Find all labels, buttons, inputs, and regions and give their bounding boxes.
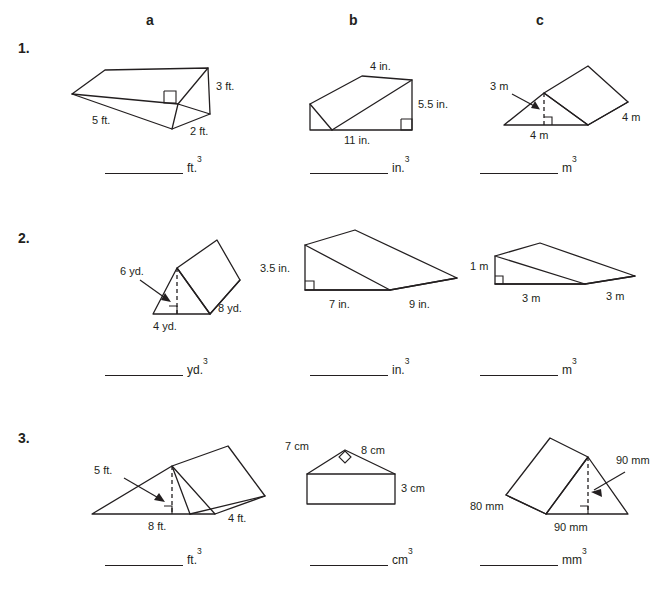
label-3c-length: 80 mm bbox=[470, 500, 504, 512]
answer-unit-2a: yd.3 bbox=[187, 362, 208, 376]
answer-blank-1c[interactable]: m3 bbox=[480, 160, 577, 174]
answer-blank-3c[interactable]: mm3 bbox=[480, 552, 587, 566]
column-header-b: b bbox=[349, 12, 358, 28]
answer-line-2b[interactable] bbox=[310, 362, 388, 376]
label-2b-base: 7 in. bbox=[329, 298, 350, 310]
label-2a-triangle-height: 6 yd. bbox=[120, 265, 144, 277]
label-1c-triangle-base: 4 m bbox=[530, 129, 548, 141]
figure-3c: 90 mm 80 mm 90 mm bbox=[470, 422, 660, 537]
answer-line-1c[interactable] bbox=[480, 160, 558, 174]
answer-blank-2c[interactable]: m3 bbox=[480, 362, 577, 376]
label-2b-height: 3.5 in. bbox=[260, 262, 290, 274]
column-header-a: a bbox=[146, 12, 154, 28]
answer-blank-3a[interactable]: ft.3 bbox=[105, 552, 202, 566]
label-1a-slant: 5 ft. bbox=[92, 114, 110, 126]
answer-line-3a[interactable] bbox=[105, 552, 183, 566]
label-1c-length: 4 m bbox=[622, 111, 640, 123]
answer-unit-1c: m3 bbox=[562, 160, 577, 174]
label-2c-base: 3 m bbox=[522, 292, 540, 304]
answer-unit-3c: mm3 bbox=[562, 552, 587, 566]
label-3b-left-slant: 7 cm bbox=[285, 440, 309, 452]
label-3a-triangle-base: 8 ft. bbox=[148, 520, 166, 532]
figure-2c: 1 m 3 m 3 m bbox=[470, 238, 660, 333]
label-1b-height: 5.5 in. bbox=[418, 98, 448, 110]
answer-line-3c[interactable] bbox=[480, 552, 558, 566]
answer-unit-3a: ft.3 bbox=[187, 552, 202, 566]
row-number-2: 2. bbox=[18, 230, 30, 246]
label-2b-depth: 9 in. bbox=[409, 298, 430, 310]
label-1a-height: 3 ft. bbox=[216, 80, 234, 92]
figure-1c: 3 m 4 m 4 m bbox=[490, 32, 670, 147]
answer-unit-2c: m3 bbox=[562, 362, 577, 376]
answer-blank-1a[interactable]: ft.3 bbox=[105, 160, 202, 174]
figure-2a: 6 yd. 8 yd. 4 yd. bbox=[120, 222, 290, 337]
label-2c-depth: 3 m bbox=[606, 290, 624, 302]
label-1b-base: 11 in. bbox=[344, 134, 370, 146]
answer-line-3b[interactable] bbox=[310, 552, 388, 566]
label-2a-length: 8 yd. bbox=[218, 302, 242, 314]
column-header-c: c bbox=[536, 12, 544, 28]
label-1c-triangle-height: 3 m bbox=[490, 80, 508, 92]
answer-unit-1a: ft.3 bbox=[187, 160, 202, 174]
row-number-3: 3. bbox=[18, 430, 30, 446]
answer-blank-3b[interactable]: cm3 bbox=[310, 552, 413, 566]
figure-2b: 3.5 in. 9 in. 7 in. bbox=[285, 228, 470, 333]
answer-unit-3b: cm3 bbox=[392, 552, 413, 566]
answer-blank-2a[interactable]: yd.3 bbox=[105, 362, 208, 376]
figure-3a: 5 ft. 8 ft. 4 ft. bbox=[80, 422, 265, 537]
label-1a-base: 2 ft. bbox=[190, 125, 208, 137]
row-number-1: 1. bbox=[18, 40, 30, 56]
label-2a-triangle-base: 4 yd. bbox=[153, 320, 177, 332]
answer-blank-1b[interactable]: in.3 bbox=[310, 160, 409, 174]
figure-3b: 7 cm 8 cm 3 cm bbox=[285, 428, 465, 528]
label-3b-right-slant: 8 cm bbox=[361, 444, 385, 456]
label-1b-depth: 4 in. bbox=[370, 60, 391, 72]
figure-1b: 4 in. 5.5 in. 11 in. bbox=[300, 32, 485, 147]
worksheet-page: a b c 1. 2. 3. 3 ft. 5 ft. 2 ft. ft.3 bbox=[0, 0, 672, 598]
label-2c-height: 1 m bbox=[470, 260, 488, 272]
answer-line-2c[interactable] bbox=[480, 362, 558, 376]
answer-blank-2b[interactable]: in.3 bbox=[310, 362, 409, 376]
label-3b-rect-height: 3 cm bbox=[401, 482, 425, 494]
answer-unit-2b: in.3 bbox=[392, 362, 409, 376]
label-3c-triangle-height: 90 mm bbox=[616, 454, 650, 466]
label-3a-length: 4 ft. bbox=[228, 512, 246, 524]
answer-line-1a[interactable] bbox=[105, 160, 183, 174]
label-3c-triangle-base: 90 mm bbox=[554, 521, 588, 533]
answer-unit-1b: in.3 bbox=[392, 160, 409, 174]
label-3a-triangle-height: 5 ft. bbox=[94, 464, 112, 476]
answer-line-1b[interactable] bbox=[310, 160, 388, 174]
figure-1a: 3 ft. 5 ft. 2 ft. bbox=[60, 32, 245, 147]
answer-line-2a[interactable] bbox=[105, 362, 183, 376]
